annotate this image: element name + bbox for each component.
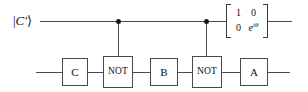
bottom-wire-segment-0 bbox=[36, 72, 62, 73]
ket-symbol: C' bbox=[16, 13, 27, 28]
top-wire-ket-label: |C'⟩ bbox=[13, 14, 32, 27]
control-line-2 bbox=[206, 21, 207, 56]
gate-a-label: A bbox=[250, 67, 258, 78]
matrix-right-bracket bbox=[264, 4, 268, 38]
gate-c-label: C bbox=[71, 67, 79, 78]
matrix-left-bracket bbox=[226, 4, 230, 38]
matrix-cell-1-0: 0 bbox=[236, 23, 241, 33]
matrix-cell-0-0: 1 bbox=[236, 8, 241, 18]
quantum-circuit-diagram: |C'⟩ C NOT B NOT A 1 0 0 eiθ bbox=[0, 0, 308, 92]
matrix-grid: 1 0 0 eiθ bbox=[230, 4, 264, 38]
control-dot-2 bbox=[204, 19, 209, 24]
top-wire-right-segment bbox=[268, 21, 292, 22]
gate-not-2-label: NOT bbox=[197, 67, 217, 77]
phase-gate-matrix: 1 0 0 eiθ bbox=[226, 4, 268, 38]
bottom-wire-segment-5 bbox=[268, 72, 290, 73]
gate-not-1-label: NOT bbox=[108, 67, 128, 77]
ket-bar-close: ⟩ bbox=[27, 13, 32, 28]
gate-c: C bbox=[62, 58, 88, 86]
bottom-wire-segment-4 bbox=[222, 72, 240, 73]
gate-a: A bbox=[240, 58, 268, 86]
bottom-wire-segment-3 bbox=[178, 72, 192, 73]
matrix-cell-1-1-exponent: iθ bbox=[253, 20, 258, 28]
control-dot-1 bbox=[116, 19, 121, 24]
top-wire-left-segment bbox=[40, 21, 226, 22]
bottom-wire-segment-2 bbox=[133, 72, 150, 73]
gate-b-label: B bbox=[160, 67, 168, 78]
gate-not-2: NOT bbox=[192, 56, 222, 88]
gate-not-1: NOT bbox=[103, 56, 133, 88]
matrix-cell-0-1: 0 bbox=[251, 8, 256, 18]
bottom-wire-segment-1 bbox=[88, 72, 103, 73]
matrix-cell-1-1: eiθ bbox=[249, 23, 259, 33]
gate-b: B bbox=[150, 58, 178, 86]
control-line-1 bbox=[118, 21, 119, 56]
